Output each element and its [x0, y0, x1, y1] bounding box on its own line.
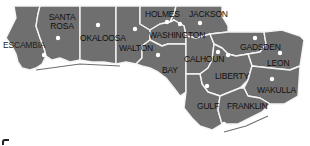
- barrier-islands: [36, 64, 120, 70]
- seat-marker: [270, 77, 274, 81]
- label-walton: WALTON: [119, 44, 153, 53]
- label-calhoun: CALHOUN: [184, 55, 224, 64]
- scan-artifact: [2, 139, 9, 145]
- seat-marker: [42, 53, 46, 57]
- seat-marker: [56, 36, 60, 40]
- label-okaloosa: OKALOOSA: [80, 34, 126, 43]
- label-wakulla: WAKULLA: [257, 86, 296, 95]
- seat-marker: [178, 22, 182, 26]
- seat-marker: [226, 53, 230, 57]
- label-leon: LEON: [267, 59, 289, 68]
- seat-marker: [96, 23, 100, 27]
- seat-marker: [133, 27, 137, 31]
- seat-marker: [156, 53, 160, 57]
- label-bay: BAY: [162, 66, 178, 75]
- seat-marker: [198, 21, 202, 25]
- label-franklin: FRANKLIN: [227, 102, 267, 111]
- seat-marker: [165, 20, 169, 24]
- label-santa-rosa: SANTA ROSA: [47, 13, 77, 31]
- label-escambia: ESCAMBIA: [3, 41, 45, 50]
- seat-marker: [205, 84, 209, 88]
- label-washington: WASHINGTON: [149, 31, 205, 40]
- label-holmes: HOLMES: [145, 10, 180, 19]
- label-gadsden: GADSDEN: [240, 43, 281, 52]
- label-liberty: LIBERTY: [215, 72, 249, 81]
- seat-marker: [253, 36, 257, 40]
- label-jackson: JACKSON: [189, 10, 228, 19]
- seat-marker: [222, 122, 226, 126]
- label-gulf: GULF: [197, 102, 219, 111]
